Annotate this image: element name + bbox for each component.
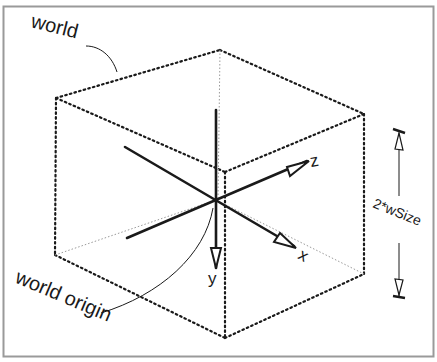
diagram-frame: z x y world world origin 2*wSize [0, 0, 437, 362]
y-axis-label: y [208, 269, 217, 288]
world-coordinate-diagram: z x y world world origin 2*wSize [0, 0, 437, 362]
